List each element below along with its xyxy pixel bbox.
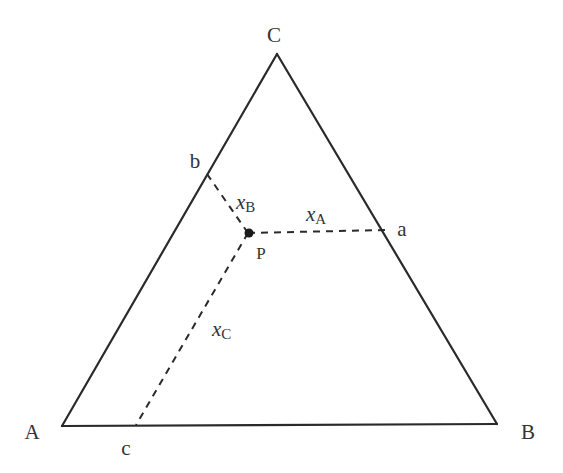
point-p-marker: [245, 229, 254, 238]
edge-ac: [62, 54, 277, 426]
vertex-label-a: A: [24, 420, 40, 444]
dashed-line-pa: [248, 230, 385, 233]
distance-label-xa: xA: [305, 202, 326, 227]
distance-label-xc: xC: [211, 317, 231, 342]
ternary-diagram: C A B a b c P xB xA xC: [0, 0, 563, 473]
edge-point-label-a: a: [397, 217, 407, 241]
edge-ab: [62, 424, 497, 426]
edge-point-label-b: b: [190, 149, 201, 173]
edge-point-label-c: c: [121, 436, 130, 460]
point-p-label: P: [256, 244, 265, 263]
edge-cb: [277, 54, 497, 424]
vertex-label-c: C: [267, 23, 281, 47]
distance-label-xb: xB: [235, 190, 255, 215]
vertex-label-b: B: [521, 420, 535, 444]
